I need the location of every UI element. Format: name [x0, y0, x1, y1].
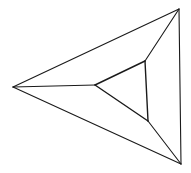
- edge-spoke-left: [13, 85, 95, 87]
- edge-spoke-bottom: [148, 121, 181, 164]
- edge-outer-bottom-left: [13, 87, 181, 164]
- edge-group: [13, 9, 181, 164]
- edge-outer-top-bottom: [179, 9, 181, 164]
- triangle-graph-diagram: [0, 0, 191, 173]
- edge-inner-bottom-left: [95, 85, 148, 121]
- edge-inner-left-top: [95, 61, 145, 85]
- edge-inner-top-bottom: [145, 61, 148, 121]
